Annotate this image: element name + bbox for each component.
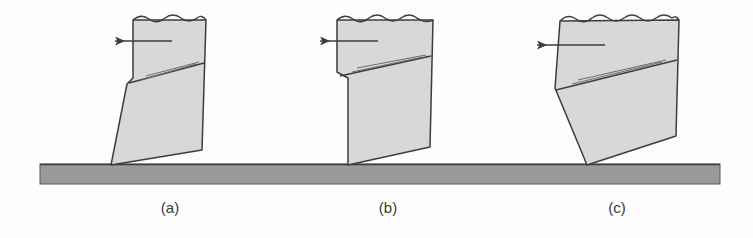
caption-b: (b) <box>379 199 397 216</box>
caption-c: (c) <box>608 199 626 216</box>
caption-a: (a) <box>161 199 179 216</box>
workpiece-surface-bar <box>40 164 720 184</box>
panel-a: (a) <box>111 15 206 216</box>
panel-c: (c) <box>537 15 679 216</box>
ground-bar-rect <box>40 164 720 184</box>
tool-body-c <box>555 20 679 165</box>
panel-b: (b) <box>320 15 433 216</box>
tool-geometry-figure: (a) (b) (c) <box>0 0 753 238</box>
figure-canvas: (a) (b) (c) <box>0 0 753 238</box>
